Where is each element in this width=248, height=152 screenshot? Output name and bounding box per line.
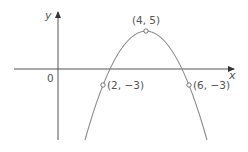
- y-axis-label: y: [44, 9, 52, 22]
- left-point-marker: [101, 83, 105, 87]
- left-point-label: (2, −3): [107, 79, 144, 91]
- vertex-point-label: (4, 5): [132, 14, 160, 26]
- vertex-point-marker: [144, 29, 148, 33]
- right-point-marker: [187, 83, 191, 87]
- origin-label: 0: [47, 72, 54, 84]
- parabola-diagram: y x 0 (4, 5) (2, −3) (6, −3): [0, 0, 248, 152]
- right-point-label: (6, −3): [193, 79, 230, 91]
